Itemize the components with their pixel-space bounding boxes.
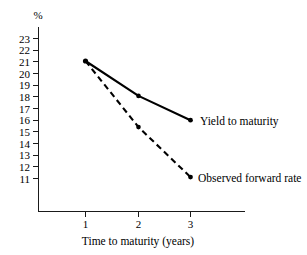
x-axis-caption: Time to maturity (years) bbox=[82, 235, 194, 248]
x-axis-tick-labels: 1 2 3 bbox=[83, 218, 194, 230]
y-axis-ticks bbox=[33, 39, 39, 179]
y-tick-label: 22 bbox=[19, 44, 30, 56]
y-tick-label: 23 bbox=[19, 33, 31, 45]
y-tick-label: 14 bbox=[19, 138, 31, 150]
label-yield-to-maturity: Yield to maturity bbox=[200, 115, 279, 128]
yield-curve-chart: % 23 22 21 20 19 18 bbox=[0, 0, 307, 255]
y-tick-label: 17 bbox=[19, 103, 31, 115]
data-point-marker bbox=[136, 94, 141, 99]
series-yield-to-maturity bbox=[86, 61, 191, 120]
y-tick-label: 11 bbox=[19, 173, 30, 185]
data-point-marker bbox=[188, 175, 193, 180]
y-axis-tick-labels: 23 22 21 20 19 18 17 16 15 14 13 12 11 bbox=[19, 33, 31, 185]
y-tick-label: 15 bbox=[19, 126, 31, 138]
y-tick-label: 20 bbox=[19, 68, 31, 80]
y-tick-label: 12 bbox=[19, 161, 30, 173]
chart-screenshot: % 23 22 21 20 19 18 bbox=[0, 0, 307, 255]
data-point-marker bbox=[83, 58, 88, 63]
label-observed-forward-rate: Observed forward rate bbox=[198, 172, 301, 184]
y-tick-label: 21 bbox=[19, 56, 30, 68]
x-tick-label: 1 bbox=[83, 218, 89, 230]
y-axis-unit-label: % bbox=[33, 9, 42, 21]
y-tick-label: 19 bbox=[19, 79, 31, 91]
y-tick-label: 16 bbox=[19, 114, 31, 126]
y-tick-label: 13 bbox=[19, 149, 31, 161]
x-tick-label: 2 bbox=[136, 218, 142, 230]
data-point-marker bbox=[136, 125, 141, 130]
data-point-markers bbox=[83, 58, 193, 179]
y-tick-label: 18 bbox=[19, 91, 31, 103]
x-tick-label: 3 bbox=[188, 218, 194, 230]
data-point-marker bbox=[188, 118, 193, 123]
series-observed-forward-rate bbox=[86, 61, 191, 177]
x-axis-ticks bbox=[86, 212, 191, 218]
